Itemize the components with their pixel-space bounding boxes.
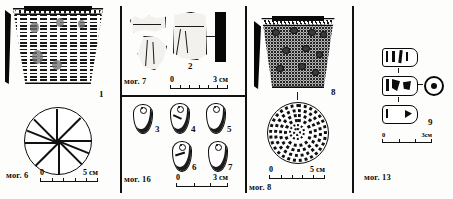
scale-ruler: [382, 139, 432, 143]
figure-number-5: 5: [227, 125, 232, 134]
figure-number-8: 8: [331, 88, 336, 97]
panel-mog-7: 2 мог. 7 0 3 см: [120, 0, 246, 95]
figure-number-6: 6: [192, 163, 197, 172]
scale-max: 5 см: [310, 165, 325, 175]
bead-view-bottom: [382, 105, 418, 124]
vessel-shading: [5, 10, 11, 84]
scale-zero: 0: [382, 131, 385, 139]
sherd-detail-line: [175, 26, 204, 27]
vessel-shading: [254, 21, 261, 89]
leader-line: [297, 92, 298, 100]
figure-number-1: 1: [99, 90, 104, 99]
scale-zero: 0: [176, 173, 180, 183]
scale-zero: 0: [269, 165, 273, 175]
grave-label-mog-7: мог. 7: [124, 76, 147, 86]
scale-max: 5 см: [83, 168, 98, 178]
bead-groove: [386, 79, 389, 91]
vessel-base-line: [272, 16, 324, 21]
panel-mog-8: 8 0 5 см мог. 8: [245, 0, 352, 199]
pendant-6: [172, 141, 190, 170]
archaeological-plate: 1 мог. 6 0 5 см: [0, 0, 453, 199]
profile-leader-line: [206, 36, 215, 37]
scalebar-mog-7: 0 3 см: [170, 75, 228, 89]
scalebar-mog-8: 0 5 см: [269, 165, 325, 179]
figure-number-2: 2: [188, 62, 193, 71]
bead-groove: [405, 110, 412, 118]
panel-mog-6: 1 мог. 6 0 5 см: [0, 0, 120, 199]
spoke-line: [56, 109, 58, 142]
grave-label-mog-16: мог. 16: [124, 174, 151, 184]
leader-line: [398, 68, 399, 73]
bead-view-end: [424, 76, 444, 96]
bead-groove: [398, 50, 402, 63]
figure-number-3: 3: [155, 125, 160, 134]
sherd-profile: [215, 12, 226, 62]
scalebar-mog-13: 0 3см: [382, 131, 432, 143]
scalebar-mog-6: 0 5 см: [40, 168, 98, 182]
figure-number-4: 4: [191, 125, 196, 134]
bead-groove: [386, 109, 388, 118]
pendant-7: [208, 141, 226, 170]
leader-line: [398, 97, 399, 102]
vessel-outline: [10, 8, 106, 84]
vessel-base-line: [24, 6, 92, 11]
figure-number-7: 7: [228, 163, 233, 172]
scale-max: 3 см: [213, 173, 228, 183]
scale-max: 3 см: [213, 75, 228, 85]
grave-label-mog-6: мог. 6: [6, 170, 29, 180]
scale-ruler: [176, 183, 228, 187]
bead-groove: [406, 52, 408, 61]
scale-zero: 0: [170, 75, 174, 85]
scalebar-mog-16: 0 3 см: [176, 173, 228, 187]
pendant-3: [133, 104, 151, 132]
spoke-line: [35, 142, 60, 167]
stipple-center: [293, 128, 301, 136]
scale-zero: 0: [40, 168, 44, 178]
bead-view-top: [382, 48, 418, 67]
scale-ruler: [40, 178, 98, 182]
vessel-base-disc: [24, 107, 92, 175]
figure-number-9: 9: [428, 118, 433, 127]
grave-label-mog-8: мог. 8: [249, 182, 272, 192]
bead-groove: [392, 79, 400, 91]
bead-groove: [392, 51, 395, 62]
sherd-detail-line: [133, 24, 161, 25]
scale-ruler: [269, 175, 325, 179]
pendant-5: [206, 103, 224, 132]
bead-groove: [403, 81, 411, 90]
pendant-4: [170, 103, 188, 132]
vessel-base-disc-stippled: [267, 102, 329, 164]
vessel-outline: [259, 18, 337, 88]
spoke-line: [57, 117, 82, 142]
grave-label-mog-13: мог. 13: [364, 172, 391, 182]
bead-groove: [386, 51, 388, 62]
connector-line: [418, 84, 423, 85]
panel-mog-13: 9 0 3см мог. 13: [352, 0, 453, 199]
scale-ruler: [170, 85, 228, 89]
scale-max: 3см: [421, 131, 432, 139]
bead-view-middle: [382, 76, 418, 96]
panel-mog-16: 3 4 5 6 7 мог. 16: [120, 95, 246, 199]
